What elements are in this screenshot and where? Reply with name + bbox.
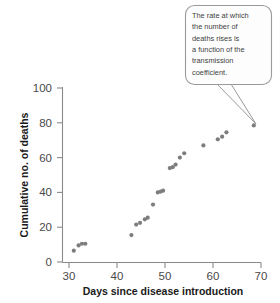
callout-pointer [217,84,256,124]
y-tick-label-100: 100 [33,82,52,94]
callout-line: the number of [192,22,239,31]
y-tick-label-0: 0 [46,256,52,268]
callout-line: a function of the [192,45,245,54]
y-tick-label-20: 20 [39,221,52,233]
x-tick-label-30: 30 [63,270,76,282]
data-points-group [72,123,256,252]
data-point [201,143,205,147]
y-tick-label-60: 60 [39,152,52,164]
y-axis-title: Cumulative no. of deaths [18,112,30,237]
data-point [129,233,133,237]
x-axis-ticks [69,263,261,269]
x-tick-label-60: 60 [207,270,220,282]
data-point [134,222,138,226]
data-point [72,249,76,253]
scatter-plot: 100 80 60 40 20 0 30 40 50 60 70 Days si… [0,0,280,303]
data-point [146,216,150,220]
y-axis-ticks [57,88,63,262]
callout-line: The rate at which [192,11,249,20]
chart-figure: 100 80 60 40 20 0 30 40 50 60 70 Days si… [0,0,280,303]
x-tick-label-50: 50 [159,270,172,282]
x-tick-label-40: 40 [111,270,124,282]
callout-line: transmission [192,56,233,65]
data-point [224,130,228,134]
data-point [178,156,182,160]
data-point [151,202,155,206]
y-tick-label-40: 40 [39,186,52,198]
x-tick-label-70: 70 [255,270,268,282]
callout-line: deaths rises is [192,34,240,43]
data-point [83,242,87,246]
data-point [220,135,224,139]
data-point [138,221,142,225]
data-point [182,151,186,155]
x-axis-title: Days since disease introduction [83,285,243,297]
data-point [161,189,165,193]
y-tick-label-80: 80 [39,117,52,129]
callout-line: coefficient. [192,68,227,77]
data-point [216,137,220,141]
data-point [173,162,177,166]
